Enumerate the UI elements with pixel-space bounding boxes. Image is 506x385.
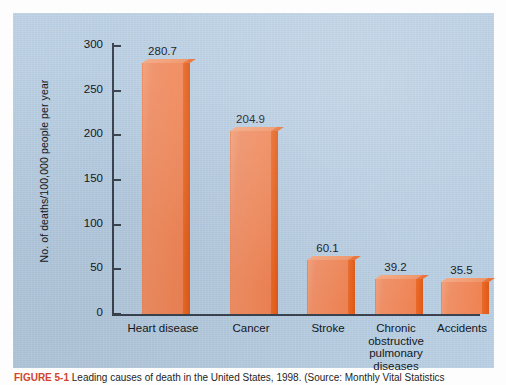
y-axis-tick-label: 50 [43,261,103,273]
category-label: Heart disease [115,322,211,335]
figure-caption-text: Leading causes of death in the United St… [72,372,445,383]
bar-side-face [183,63,190,314]
y-axis-tick-label: 250 [43,83,103,95]
bar-side-face [482,282,489,314]
y-axis-tick-label: 300 [43,38,103,50]
bar-value-label: 204.9 [236,113,265,125]
bar: 35.5 [441,282,482,314]
category-label-line: obstructive [356,335,436,348]
x-axis-line [112,314,480,316]
category-label: Accidents [422,322,502,335]
y-axis-tick-mark [114,224,121,226]
bar-side-face [416,279,423,314]
figure-caption: FIGURE 5-1 Leading causes of death in th… [14,372,506,384]
y-axis-tick-mark [114,179,121,181]
figure-number: FIGURE 5-1 [14,372,69,383]
bar-front-face [230,131,272,314]
bar-value-label: 39.2 [384,261,406,273]
y-axis-tick-mark [114,134,121,136]
category-label-line: Accidents [422,322,502,335]
bar: 204.9 [230,131,271,314]
category-label-line: pulmonary [356,347,436,360]
bar: 280.7 [142,63,183,314]
category-label: Cancer [212,322,290,335]
category-label-line: Cancer [212,322,290,335]
bar-front-face [307,260,349,314]
category-label-line: Heart disease [115,322,211,335]
y-axis-tick-mark [114,268,121,270]
bar: 39.2 [375,279,416,314]
bar-front-face [441,282,483,314]
category-label-line: diseases [356,360,436,373]
figure-panel: No. of deaths/100,000 people per year 05… [13,13,494,368]
y-axis-tick-mark [114,313,121,315]
bar-value-label: 60.1 [316,242,338,254]
y-axis-tick-mark [114,90,121,92]
scanned-page: No. of deaths/100,000 people per year 05… [0,0,506,385]
bar-side-face [348,260,355,314]
category-label: Stroke [293,322,363,335]
y-axis-tick-label: 150 [43,172,103,184]
bar-value-label: 35.5 [450,264,472,276]
bar-front-face [375,279,417,314]
y-axis-tick-label: 0 [43,306,103,318]
category-label-line: Stroke [293,322,363,335]
bar: 60.1 [307,260,348,314]
bar-front-face [142,63,184,314]
y-axis-tick-label: 200 [43,127,103,139]
y-axis-tick-label: 100 [43,217,103,229]
y-axis-tick-mark [114,45,121,47]
bar-value-label: 280.7 [148,45,177,57]
bar-side-face [271,131,278,314]
bar-chart: No. of deaths/100,000 people per year 05… [13,13,494,368]
